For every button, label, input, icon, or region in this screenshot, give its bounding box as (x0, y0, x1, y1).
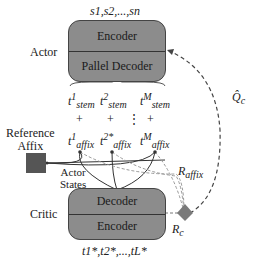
actor-input-sequence: s1,s2,...,sn (90, 4, 140, 19)
q-c-label: Q̂c (232, 90, 245, 106)
actor-label: Actor (30, 45, 57, 60)
affix-2: t2*affix (100, 131, 131, 150)
ellipsis: ⋮ (128, 112, 140, 127)
critic-box: Decoder Encoder (68, 188, 166, 240)
stem-2: t2stem (100, 91, 127, 110)
critic-encoder: Encoder (69, 214, 165, 239)
reference-affix-label: ReferenceAffix (6, 127, 55, 153)
plus-m: + (147, 112, 154, 127)
actor-decoder: Pallel Decoder (69, 51, 165, 81)
stem-1: t1stem (68, 91, 95, 110)
plus-1: + (76, 112, 83, 127)
actor-states-label: ActorStates (60, 166, 86, 190)
actor-box: Encoder Pallel Decoder (68, 20, 166, 82)
critic-decoder: Decoder (69, 189, 165, 215)
critic-label: Critic (30, 207, 57, 222)
reference-affix-square (26, 153, 46, 173)
critic-output-sequence: t1*,t2*,...,tL* (82, 244, 147, 259)
plus-2: + (107, 112, 114, 127)
affix-1: t1affix (68, 131, 94, 150)
r-c-label: Rc (172, 222, 184, 238)
affix-m: tMaffix (140, 131, 169, 150)
actor-encoder: Encoder (69, 21, 165, 52)
stem-m: tMstem (140, 91, 170, 110)
r-affix-label: Raffix (178, 164, 203, 180)
